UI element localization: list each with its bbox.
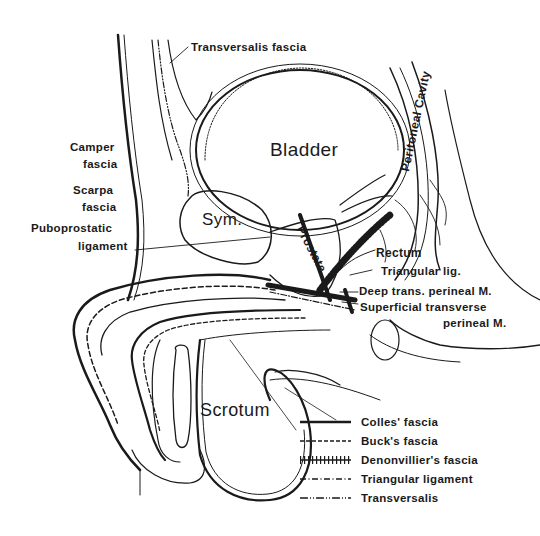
label-puboprostatic-line1: Puboprostatic [31,222,112,235]
label-scarpa-fascia-line1: Scarpa [73,184,113,197]
label-transversalis-fascia: Transversalis fascia [191,41,306,54]
label-bladder: Bladder [270,143,338,156]
label-superficial-transverse-line2: perineal M. [443,317,506,330]
dash-dot-dot-line-swatch-icon [298,493,353,503]
label-camper-fascia-line1: Camper [70,141,115,154]
legend-item-transversalis: Transversalis [298,488,528,507]
label-superficial-transverse-line1: Superficial transverse [360,301,487,314]
legend-item-colles: Colles' fascia [298,412,528,431]
label-puboprostatic-line2: ligament [78,240,128,253]
legend-label: Denonvillier's fascia [361,454,478,466]
legend-item-bucks: Buck's fascia [298,431,528,450]
dashed-line-swatch-icon [298,436,353,446]
dash-dot-line-swatch-icon [298,474,353,484]
label-triangular-lig: Triangular lig. [381,265,461,278]
legend-label: Buck's fascia [361,435,438,447]
legend-label: Transversalis [361,492,438,504]
label-scarpa-fascia-line2: fascia [82,201,116,214]
legend: Colles' fascia Buck's fascia Denonvillie… [298,412,528,507]
legend-item-triangular-ligament: Triangular ligament [298,469,528,488]
label-scrotum: Scrotum [200,404,270,417]
label-deep-trans-perineal: Deep trans. perineal M. [359,285,492,298]
label-camper-fascia-line2: fascia [83,158,117,171]
label-rectum: Rectum [376,247,422,260]
solid-line-swatch-icon [298,417,353,427]
legend-label: Colles' fascia [361,416,438,428]
legend-label: Triangular ligament [361,473,473,485]
label-symphysis: Sym. [202,213,242,226]
puboprostatic-leader [135,237,270,250]
hatched-line-swatch-icon [298,455,353,465]
legend-item-denonvillier: Denonvillier's fascia [298,450,528,469]
